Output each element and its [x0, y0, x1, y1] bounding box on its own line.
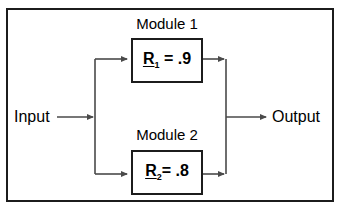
module-2-reliability: R2= .8 [145, 163, 189, 182]
module-1-label: Module 1 [131, 15, 203, 32]
module-2-value: .8 [176, 162, 189, 179]
module-1-reliability: R1 = .9 [143, 51, 191, 70]
module-1-box: R1 = .9 [131, 38, 203, 83]
input-label: Input [14, 108, 50, 126]
diagram-canvas: Module 1 R1 = .9 Module 2 R2= .8 Input O… [0, 0, 340, 212]
module-2-symbol: R [145, 162, 157, 179]
module-1-value: .9 [178, 50, 191, 67]
module-2-equals: = [162, 162, 171, 179]
module-2-box: R2= .8 [131, 150, 203, 195]
module-2-label: Module 2 [131, 126, 203, 143]
output-label: Output [272, 108, 320, 126]
module-1-symbol: R [143, 50, 155, 67]
module-1-equals: = [164, 50, 173, 67]
